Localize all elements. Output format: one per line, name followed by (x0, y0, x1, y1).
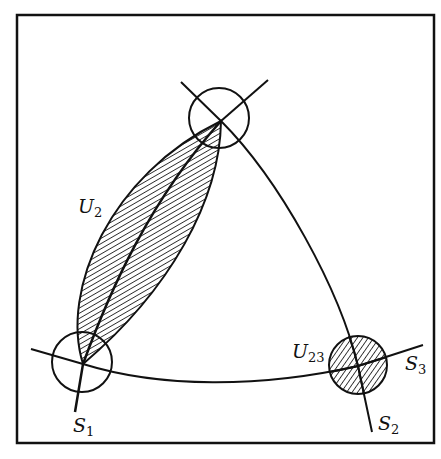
s3-label: S3 (405, 352, 426, 377)
s2-label: S2 (378, 412, 399, 437)
diagram-canvas: U2 U23 S1 S2 S3 (0, 0, 441, 459)
u2-label: U2 (78, 195, 102, 220)
u2-lens-region (78, 121, 221, 364)
u23-label: U23 (292, 340, 325, 365)
s1-label: S1 (73, 414, 94, 439)
